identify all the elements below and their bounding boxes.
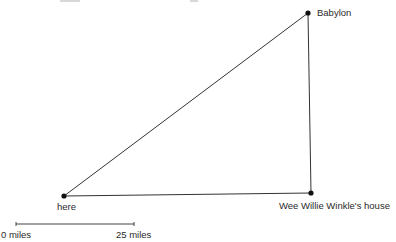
edge-here-wee-willie-winkle-house [64, 193, 311, 196]
scale-bar [16, 222, 134, 226]
edge-here-babylon [64, 13, 308, 196]
here-dot-icon [61, 193, 66, 198]
babylon-label: Babylon [317, 8, 351, 18]
wee-willie-winkle-house-dot-icon [308, 190, 313, 195]
edge-babylon-wee-willie-winkle-house [308, 13, 311, 193]
scale-start-label: 0 miles [1, 230, 31, 240]
location-dots [61, 10, 313, 198]
edges [64, 13, 311, 196]
here-label: here [57, 202, 76, 212]
wee-willie-winkle-house-label: Wee Willie Winkle's house [279, 201, 390, 211]
babylon-dot-icon [305, 10, 310, 15]
scale-end-label: 25 miles [116, 230, 151, 240]
